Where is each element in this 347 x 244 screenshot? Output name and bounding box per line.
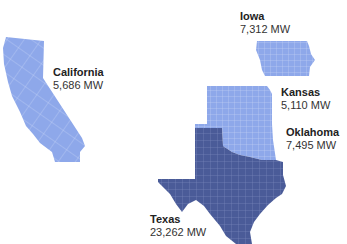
state-iowa[interactable] (256, 41, 315, 76)
state-name: Oklahoma (286, 126, 339, 139)
label-texas: Texas 23,262 MW (150, 213, 206, 238)
state-value: 23,262 MW (150, 226, 206, 239)
state-name: Kansas (281, 86, 330, 99)
state-map (0, 0, 347, 244)
state-value: 7,312 MW (240, 23, 290, 36)
state-value: 5,686 MW (53, 79, 104, 92)
state-name: Iowa (240, 10, 290, 23)
state-name: Texas (150, 213, 206, 226)
state-value: 7,495 MW (286, 139, 339, 152)
label-iowa: Iowa 7,312 MW (240, 10, 290, 35)
label-kansas: Kansas 5,110 MW (281, 86, 330, 111)
state-kansas[interactable] (207, 86, 272, 124)
state-california[interactable] (3, 37, 85, 162)
label-oklahoma: Oklahoma 7,495 MW (286, 126, 339, 151)
state-value: 5,110 MW (281, 99, 330, 112)
label-california: California 5,686 MW (53, 66, 104, 91)
state-name: California (53, 66, 104, 79)
